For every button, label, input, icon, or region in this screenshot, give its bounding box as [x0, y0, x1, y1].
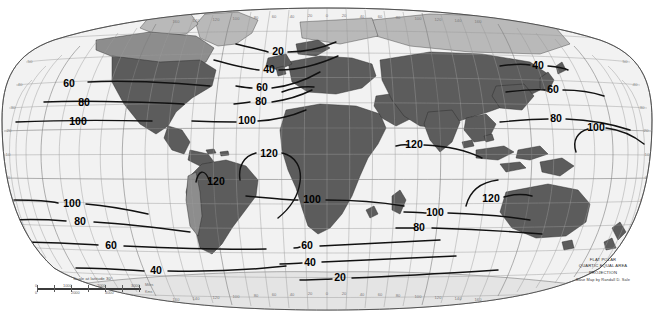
contour-label: 80	[78, 96, 90, 108]
latitude-label-left: 40	[18, 82, 23, 87]
scale-miles-0: 0	[35, 283, 37, 288]
longitude-label-bottom: 100	[415, 294, 423, 299]
scale-miles-1: 1000	[63, 283, 72, 288]
longitude-label-top: 40	[290, 14, 295, 19]
contour-label: 60	[63, 77, 75, 89]
contour-label: 120	[482, 192, 500, 204]
longitude-label-top: 160	[475, 19, 483, 24]
contour-label: 100	[587, 121, 605, 133]
latitude-label-left: 10	[6, 152, 11, 157]
longitude-label-top: 80	[396, 15, 401, 20]
longitude-label-bottom: 100	[233, 294, 241, 299]
latitude-label-left: 60	[42, 37, 47, 42]
longitude-label-top: 140	[193, 18, 201, 23]
contour-label: 100	[69, 115, 87, 127]
contour-label: 80	[74, 215, 86, 227]
contour-label: 40	[263, 63, 275, 75]
longitude-label-bottom: 40	[360, 292, 365, 297]
contour-label: 40	[532, 59, 544, 71]
longitude-label-bottom: 60	[272, 292, 277, 297]
longitude-label-top: 20	[342, 13, 347, 18]
latitude-label-right: 60	[609, 37, 614, 42]
latitude-label-left: 30	[28, 244, 33, 249]
scale-rule	[37, 288, 141, 290]
longitude-label-top: 40	[360, 14, 365, 19]
basemap-author: Base Map by Randall D. Sale	[561, 277, 645, 283]
scale-bar: Scale at latitude 30° 0 1000 2000 3000 M…	[33, 276, 153, 294]
scale-title: Scale at latitude 30°	[33, 276, 153, 281]
longitude-label-bottom: 20	[308, 291, 313, 296]
contour-label: 40	[150, 264, 162, 276]
longitude-label-bottom: 80	[396, 293, 401, 298]
longitude-label-top: 160	[173, 19, 181, 24]
scale-miles-2: 2000	[97, 283, 106, 288]
longitude-label-top: 60	[272, 14, 277, 19]
longitude-label-top: 140	[455, 18, 463, 23]
scale-tick	[54, 285, 55, 292]
contour-label: 100	[303, 193, 321, 205]
scale-tick	[122, 285, 123, 292]
latitude-label-left: 50	[28, 59, 33, 64]
contour-label: 100	[426, 206, 444, 218]
latitude-label-right: 10	[645, 152, 650, 157]
projection-line-3: PROJECTION	[561, 270, 645, 276]
latitude-label-left: 30	[11, 105, 16, 110]
contour-label: 120	[405, 138, 423, 150]
longitude-label-top: 80	[254, 15, 259, 20]
latitude-label-right: 40	[633, 82, 638, 87]
longitude-label-top: 120	[213, 17, 221, 22]
scale-kms-2: 4000	[105, 290, 114, 295]
longitude-label-bottom: 160	[173, 297, 181, 302]
latitude-label-right: 30	[623, 244, 628, 249]
longitude-label-top: 120	[435, 17, 443, 22]
contour-label: 120	[260, 147, 278, 159]
longitude-label-bottom: 40	[290, 292, 295, 297]
longitude-label-top: 20	[308, 13, 313, 18]
scale-miles-unit: Miles	[145, 283, 153, 287]
longitude-label-bottom: 140	[193, 296, 201, 301]
longitude-label-bottom: 120	[435, 295, 443, 300]
longitude-label-bottom: 160	[475, 297, 483, 302]
longitude-label-top: 100	[415, 16, 423, 21]
contour-label: 20	[272, 45, 284, 57]
contour-label: 80	[255, 95, 267, 107]
contour-label: 60	[301, 239, 313, 251]
contour-label: 80	[413, 221, 425, 233]
contour-label: 100	[63, 197, 81, 209]
contour-label: 40	[304, 256, 316, 268]
longitude-label-bottom: 120	[213, 295, 221, 300]
contour-label: 60	[547, 83, 559, 95]
latitude-label-right: 50	[623, 59, 628, 64]
latitude-label-right: 20	[644, 128, 649, 133]
contour-label: 20	[334, 271, 346, 283]
contour-label: 60	[256, 81, 268, 93]
scale-bar-graphic: 0 1000 2000 3000 Miles 0 2000 4000 Kms	[33, 283, 153, 294]
world-map-figure: 1601401201008060402002040608010012014016…	[0, 0, 655, 334]
longitude-label-bottom: 60	[378, 292, 383, 297]
longitude-label-top: 100	[233, 16, 241, 21]
latitude-label-left: 40	[43, 267, 48, 272]
longitude-label-top: 60	[378, 14, 383, 19]
contour-label: 100	[238, 114, 256, 126]
scale-tick	[88, 285, 89, 292]
latitude-label-left: 20	[7, 128, 12, 133]
scale-kms-1: 2000	[71, 290, 80, 295]
scale-kms-0: 0	[35, 290, 37, 295]
contour-label: 60	[105, 239, 117, 251]
latitude-label-right: 30	[640, 105, 645, 110]
latitude-label-right: 50	[589, 287, 594, 292]
contour-label: 120	[207, 175, 225, 187]
contour-label: 80	[550, 112, 562, 124]
longitude-label-bottom: 80	[254, 293, 259, 298]
longitude-label-bottom: 140	[455, 296, 463, 301]
projection-credit: FLAT POLAR QUARTIC EQUAL AREA PROJECTION…	[561, 257, 645, 283]
scale-kms-unit: Kms	[145, 290, 152, 294]
scale-miles-3: 3000	[131, 283, 140, 288]
longitude-label-bottom: 20	[342, 291, 347, 296]
